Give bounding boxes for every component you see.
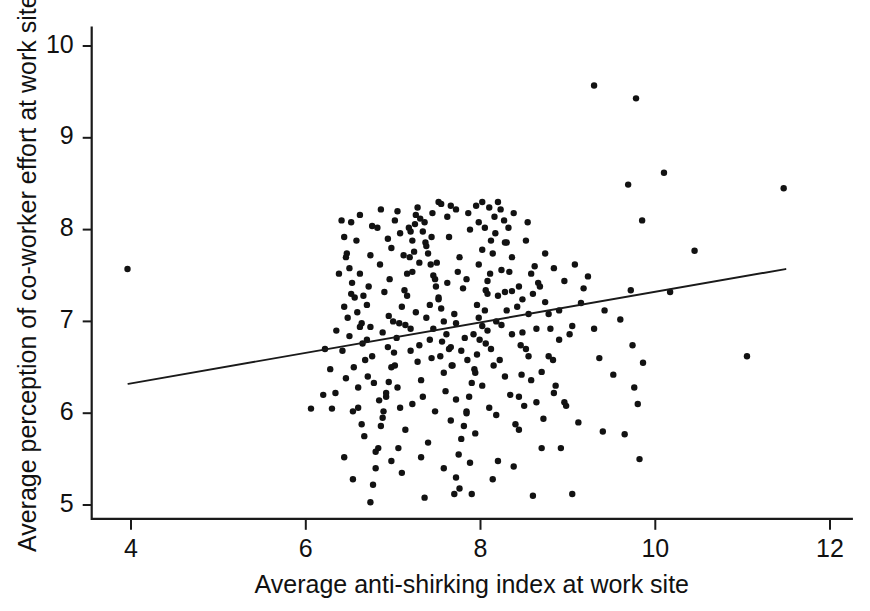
data-point [545,311,551,317]
data-point [427,302,433,308]
data-point [358,320,364,326]
data-point [490,476,496,482]
data-point [551,265,557,271]
data-point [538,445,544,451]
data-point [441,318,447,324]
data-point [411,248,417,254]
data-point [498,267,504,273]
data-point [462,335,468,341]
data-point [421,219,427,225]
data-point [449,362,455,368]
data-point [502,289,508,295]
data-point [392,362,398,368]
data-point [569,323,575,329]
data-point [338,217,344,223]
data-point [343,254,349,260]
data-point [479,323,485,329]
data-point [524,219,530,225]
data-point [476,219,482,225]
data-point [407,326,413,332]
data-point [416,342,422,348]
data-point [407,348,413,354]
data-point [339,348,345,354]
data-point [376,397,382,403]
data-point [451,311,457,317]
data-point [362,357,368,363]
data-point [413,309,419,315]
data-point [528,377,534,383]
data-point [406,225,412,231]
data-point [439,338,445,344]
data-point [467,226,473,232]
data-point [427,337,433,343]
data-point [506,269,512,275]
data-point [432,276,438,282]
data-point [505,225,511,231]
y-axis-title: Average perception of co-worker effort a… [13,0,41,552]
data-point [372,465,378,471]
data-point [473,203,479,209]
data-point [435,199,441,205]
data-point [351,364,357,370]
data-point [514,304,520,310]
data-point [621,431,627,437]
data-point [402,322,408,328]
data-point [533,399,539,405]
data-point [409,269,415,275]
data-point [542,250,548,256]
data-point [383,390,389,396]
data-point [540,416,546,422]
data-point [367,324,373,330]
data-point [501,217,507,223]
data-point [414,204,420,210]
data-point [386,379,392,385]
data-point [435,296,441,302]
data-point [453,396,459,402]
data-point [511,210,517,216]
data-point [332,390,338,396]
data-point [360,293,366,299]
data-point [372,449,378,455]
data-point [380,408,386,414]
data-point [600,428,606,434]
data-point [453,206,459,212]
data-point [509,288,515,294]
data-point [629,342,635,348]
data-point [425,250,431,256]
data-point [369,223,375,229]
data-point [341,234,347,240]
data-point [414,359,420,365]
data-point [333,327,339,333]
data-point [353,237,359,243]
data-point [458,348,464,354]
data-point [474,302,480,308]
data-point [465,210,471,216]
data-point [591,326,597,332]
data-point [479,382,485,388]
data-point [596,355,602,361]
data-point [444,214,450,220]
data-point [633,95,639,101]
data-point [625,181,631,187]
data-point [392,217,398,223]
data-point [388,245,394,251]
data-point [399,304,405,310]
tick-labels-layer: 56789104681012 [46,30,844,563]
data-point [530,291,536,297]
data-point [483,340,489,346]
data-point [691,248,697,254]
data-point [531,263,537,269]
x-tick-label: 8 [474,534,488,562]
data-point [561,399,567,405]
data-point [428,261,434,267]
data-point [434,259,440,265]
data-point [448,417,454,423]
trendline-layer [128,269,785,384]
data-point [516,393,522,399]
data-point [394,208,400,214]
data-point [469,380,475,386]
data-point [580,285,586,291]
data-point [466,393,472,399]
data-point [502,373,508,379]
data-point [591,82,597,88]
